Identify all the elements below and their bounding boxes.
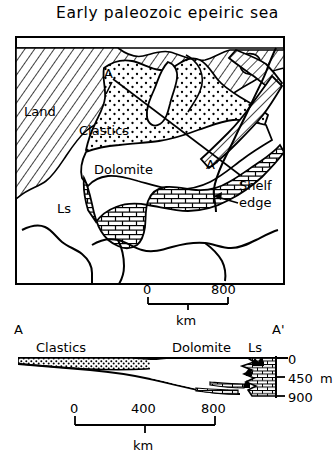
- map-label-section-end: A': [206, 157, 218, 172]
- section-label-clastics: Clastics: [36, 340, 86, 355]
- depth-label-0: 0: [288, 352, 296, 367]
- section-dolomite-body: [150, 360, 240, 393]
- figure-root: Early paleozoic epeiric sea: [0, 0, 335, 461]
- depth-unit: m: [320, 371, 333, 386]
- figure-canvas: Land A Clastics Dolomite Ls A' Shelf edg…: [0, 0, 335, 461]
- map-label-clastics: Clastics: [79, 123, 129, 138]
- section-label-dolomite: Dolomite: [172, 340, 231, 355]
- section-scale-label-400: 400: [131, 401, 156, 416]
- cross-section-panel: A A' Clastics Dolomite Ls: [14, 322, 333, 453]
- depth-label-450: 450: [288, 371, 313, 386]
- section-label-limestone: Ls: [248, 340, 262, 355]
- section-scale-label-0: 0: [70, 401, 78, 416]
- map-label-section-start: A: [104, 66, 113, 81]
- map-label-shelf-edge-line1: Shelf: [239, 178, 272, 193]
- section-scale-bar: 0 400 800 km: [70, 401, 226, 453]
- map-scale-bar: 0 800 km: [143, 282, 236, 328]
- section-scale-unit: km: [133, 438, 153, 453]
- map-label-limestone: Ls: [57, 201, 71, 216]
- section-label-right-end: A': [272, 322, 284, 337]
- section-body: [18, 356, 288, 398]
- map-label-shelf-edge-line2: edge: [239, 195, 272, 210]
- section-scale-label-800: 800: [201, 401, 226, 416]
- map-panel: Land A Clastics Dolomite Ls A' Shelf edg…: [16, 37, 284, 284]
- section-label-left-end: A: [14, 322, 23, 337]
- depth-label-900: 900: [288, 390, 313, 405]
- map-label-land: Land: [24, 104, 56, 119]
- map-scale-label-800: 800: [211, 282, 236, 297]
- section-depth-scale: 0 450 m 900: [276, 352, 333, 405]
- map-scale-unit: km: [176, 313, 196, 328]
- map-label-dolomite: Dolomite: [94, 162, 153, 177]
- map-scale-label-0: 0: [143, 282, 151, 297]
- figure-title: Early paleozoic epeiric sea: [0, 4, 335, 22]
